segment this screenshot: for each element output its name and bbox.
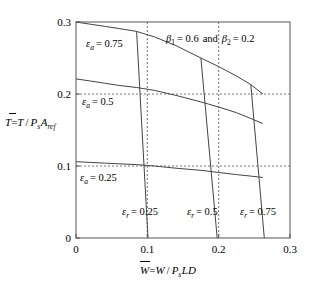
eps-r-05-value: = 0.5 — [196, 206, 218, 217]
eps-r-025-subscript: r — [126, 211, 129, 220]
beta1-subscript: 1 — [171, 38, 175, 47]
eps-r-075-value: = 0.75 — [249, 206, 276, 217]
ytick-labels: 0.3 0.2 0.1 0 — [57, 16, 71, 244]
y-title-a-subscript: ref — [47, 122, 56, 131]
eps-a-075-value: = 0.75 — [96, 38, 123, 49]
ytick-label-0.2: 0.2 — [57, 88, 71, 100]
ytick-label-0.3: 0.3 — [57, 16, 71, 28]
xtick-label-0.1: 0.1 — [140, 243, 154, 255]
y-axis-title: T=T/PsAref — [5, 114, 56, 131]
eps-a-05-subscript: a — [86, 101, 90, 110]
eps-r-075-subscript: r — [244, 211, 247, 220]
eps-r-05-subscript: r — [191, 211, 194, 220]
x-axis-title: W=W/PsLD — [140, 262, 196, 279]
beta1-value: = 0.6 — [177, 33, 199, 44]
xtick-label-0.3: 0.3 — [283, 243, 297, 255]
xtick-label-0.2: 0.2 — [212, 243, 226, 255]
y-title-t: T — [17, 116, 24, 128]
eps-a-075-subscript: a — [90, 43, 94, 52]
ytick-label-0.1: 0.1 — [57, 160, 71, 172]
xtick-label-0: 0 — [73, 243, 79, 255]
eps-a-025-subscript: a — [84, 177, 88, 186]
beta2-value: = 0.2 — [233, 33, 255, 44]
ytick-label-0: 0 — [66, 232, 72, 244]
x-title-ld: LD — [181, 264, 196, 276]
chart-svg: 0.3 0.2 0.1 0 0 0.1 0.2 0.3 εa= 0.75 εa=… — [0, 0, 312, 286]
beta-and: and — [203, 33, 219, 44]
y-axis-title-text: T=T/PsAref — [5, 116, 56, 131]
chart-figure: 0.3 0.2 0.1 0 0 0.1 0.2 0.3 εa= 0.75 εa=… — [0, 0, 312, 286]
xtick-labels: 0 0.1 0.2 0.3 — [73, 243, 297, 255]
eps-a-05-value: = 0.5 — [92, 96, 114, 107]
x-title-w: W — [155, 264, 165, 276]
x-title-slash: / — [167, 264, 171, 276]
eps-a-025-value: = 0.25 — [90, 172, 117, 183]
y-title-slash: / — [25, 116, 29, 128]
beta2-subscript: 2 — [227, 38, 231, 47]
x-axis-title-text: W=W/PsLD — [140, 264, 196, 279]
eps-r-025-value: = 0.25 — [131, 206, 158, 217]
